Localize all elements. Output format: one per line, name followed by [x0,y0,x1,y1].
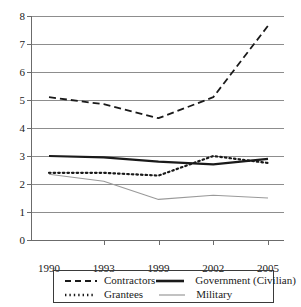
x-tick-mark [268,240,269,245]
legend-item-contractors: Contractors [54,273,155,288]
dotted-line-swatch [64,290,98,300]
y-tick-label: 7 [20,39,26,50]
series-lines-group [31,16,284,240]
legend-row: Contractors Government (Civilian) [54,273,273,288]
legend-label-government-civilian: Government (Civilian) [195,275,296,286]
series-line-contractors [49,26,268,118]
y-tick-label: 8 [20,11,26,22]
x-tick-mark [104,240,105,245]
series-line-government-civilian [49,156,268,164]
y-tick-label: 5 [20,95,26,106]
solid-thin-line-swatch [156,290,190,300]
series-line-military [49,174,268,199]
x-axis-line [31,240,284,241]
series-line-grantees [49,156,268,176]
legend-row: Grantees Military [54,287,273,302]
legend-item-grantees: Grantees [54,287,156,302]
y-tick-label: 6 [20,67,26,78]
y-tick-label: 4 [20,123,26,134]
x-tick-mark [159,240,160,245]
y-tick-label: 3 [20,151,26,162]
solid-bold-line-swatch [155,276,189,286]
chart-legend: Contractors Government (Civilian) Grante [53,270,274,303]
legend-item-government-civilian: Government (Civilian) [155,273,273,288]
plot-area: 012345678 19901993199920022005 [31,16,284,240]
chart-page: 012345678 19901993199920022005 Contracto… [0,0,301,307]
dashed-line-swatch [64,276,98,286]
y-tick-label: 1 [20,207,26,218]
clipped-caption-text [46,0,286,3]
legend-label-grantees: Grantees [104,289,143,300]
x-tick-mark [213,240,214,245]
y-tick-label: 0 [20,235,26,246]
y-tick-label: 2 [20,179,26,190]
legend-label-military: Military [196,289,232,300]
legend-item-military: Military [156,287,273,302]
legend-label-contractors: Contractors [104,275,155,286]
